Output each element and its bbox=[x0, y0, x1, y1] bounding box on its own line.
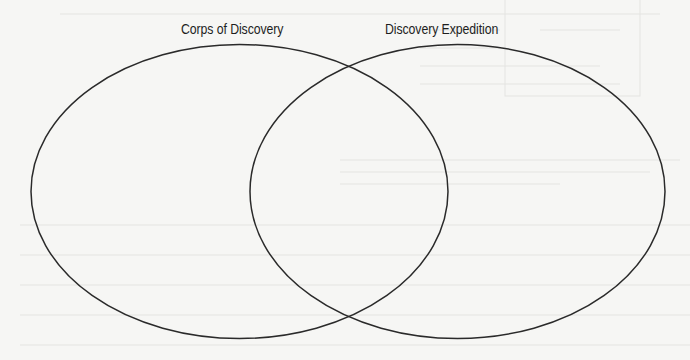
left-set-label: Corps of Discovery bbox=[181, 19, 283, 39]
venn-diagram bbox=[0, 0, 690, 360]
right-set-label: Discovery Expedition bbox=[385, 19, 498, 39]
venn-diagram-page: Corps of Discovery Discovery Expedition bbox=[0, 0, 690, 360]
right-set-ellipse bbox=[250, 45, 665, 339]
left-set-ellipse bbox=[31, 45, 448, 339]
